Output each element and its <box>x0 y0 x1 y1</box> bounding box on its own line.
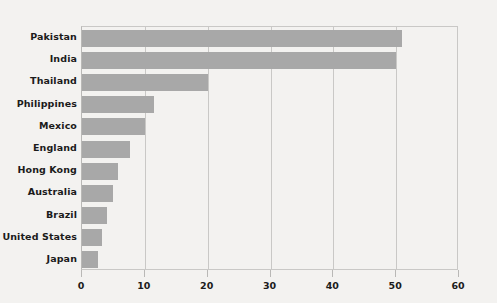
axis-tick-mark <box>144 270 145 277</box>
category-label: Pakistan <box>0 32 77 42</box>
bar-fill <box>82 185 113 202</box>
category-label: India <box>0 54 77 64</box>
bar <box>82 141 130 158</box>
category-label: Japan <box>0 254 77 264</box>
bar <box>82 74 208 91</box>
value-axis: 0102030405060 <box>81 270 458 303</box>
category-label: Philippines <box>0 99 77 109</box>
bar-fill <box>82 30 402 47</box>
gridline <box>396 27 397 269</box>
category-label: Mexico <box>0 121 77 131</box>
bar <box>82 185 113 202</box>
axis-tick-label: 30 <box>250 280 290 291</box>
axis-tick-label: 50 <box>375 280 415 291</box>
bar <box>82 118 145 135</box>
bar-fill <box>82 52 396 69</box>
axis-tick-mark <box>270 270 271 277</box>
category-label: Brazil <box>0 210 77 220</box>
category-label: England <box>0 143 77 153</box>
category-axis-labels: PakistanIndiaThailandPhilippinesMexicoEn… <box>0 26 77 270</box>
bar <box>82 30 402 47</box>
axis-tick-mark <box>458 270 459 277</box>
bar <box>82 96 154 113</box>
bar <box>82 52 396 69</box>
bar-fill <box>82 74 208 91</box>
category-label: Australia <box>0 187 77 197</box>
axis-tick-label: 10 <box>124 280 164 291</box>
bar <box>82 207 107 224</box>
bar-chart: PakistanIndiaThailandPhilippinesMexicoEn… <box>0 0 497 303</box>
axis-tick-label: 20 <box>187 280 227 291</box>
bar-fill <box>82 141 130 158</box>
bar-fill <box>82 96 154 113</box>
bar-fill <box>82 118 145 135</box>
bar-fill <box>82 163 118 180</box>
category-label: Thailand <box>0 76 77 86</box>
axis-tick-mark <box>332 270 333 277</box>
bar <box>82 251 98 268</box>
axis-tick-label: 60 <box>438 280 478 291</box>
axis-tick-label: 40 <box>312 280 352 291</box>
plot-area <box>81 26 458 270</box>
axis-tick-label: 0 <box>61 280 101 291</box>
bar-fill <box>82 229 102 246</box>
axis-tick-mark <box>81 270 82 277</box>
bar <box>82 229 102 246</box>
category-label: United States <box>0 232 77 242</box>
axis-tick-mark <box>395 270 396 277</box>
bar <box>82 163 118 180</box>
axis-tick-mark <box>207 270 208 277</box>
bar-fill <box>82 207 107 224</box>
bar-fill <box>82 251 98 268</box>
category-label: Hong Kong <box>0 165 77 175</box>
